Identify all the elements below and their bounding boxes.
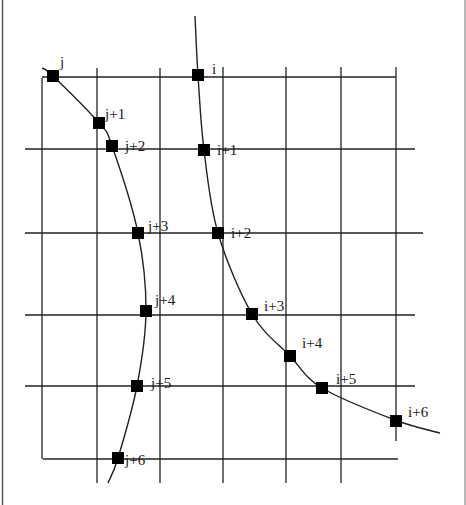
marker-i+3 [246, 308, 258, 320]
marker-j+6 [112, 452, 124, 464]
marker-j [47, 70, 59, 82]
label-j+6: j+6 [124, 452, 146, 468]
label-i+5: i+5 [336, 371, 356, 387]
grid-lines [25, 67, 423, 483]
marker-j+2 [106, 140, 118, 152]
marker-j+3 [132, 227, 144, 239]
marker-i+5 [316, 382, 328, 394]
marker-i+2 [212, 227, 224, 239]
label-j+4: j+4 [154, 292, 176, 308]
label-i+1: i+1 [217, 142, 237, 158]
marker-j+5 [131, 380, 143, 392]
label-i+6: i+6 [408, 404, 429, 420]
marker-i+4 [284, 350, 296, 362]
label-i+2: i+2 [231, 225, 251, 241]
marker-i+6 [390, 415, 402, 427]
intersection-markers [47, 69, 402, 464]
label-i+3: i+3 [264, 298, 284, 314]
label-j+5: j+5 [150, 375, 171, 391]
marker-labels: jj+1j+2j+3j+4j+5j+6ii+1i+2i+3i+4i+5i+6 [59, 54, 429, 468]
label-i: i [212, 61, 216, 77]
marker-j+1 [93, 117, 105, 129]
label-j: j [59, 54, 64, 70]
marker-j+4 [140, 305, 152, 317]
label-i+4: i+4 [302, 335, 323, 351]
marker-i [192, 69, 204, 81]
curve-j [42, 68, 146, 483]
label-j+2: j+2 [124, 138, 145, 154]
curves [42, 16, 440, 483]
grid-curve-diagram: jj+1j+2j+3j+4j+5j+6ii+1i+2i+3i+4i+5i+6 [0, 0, 466, 505]
label-j+1: j+1 [104, 106, 125, 122]
marker-i+1 [198, 144, 210, 156]
label-j+3: j+3 [147, 218, 168, 234]
